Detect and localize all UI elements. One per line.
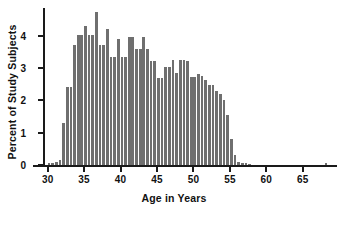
x-tick-mark: [120, 167, 122, 172]
histogram-bar: [91, 35, 94, 165]
histogram-bar: [197, 74, 200, 165]
x-tick-mark: [265, 167, 267, 172]
y-tick-label: 3: [20, 62, 26, 73]
histogram-bar: [183, 60, 186, 165]
histogram-bar: [204, 80, 207, 165]
histogram-bar: [215, 91, 218, 165]
y-tick-label: 0: [20, 160, 26, 171]
y-tick-mark: [38, 35, 43, 37]
histogram-bar: [157, 78, 160, 165]
x-tick-mark: [83, 167, 85, 172]
x-tick-label: 50: [188, 174, 200, 185]
histogram-bar: [164, 67, 167, 165]
y-axis-title: Percent of Study Subjects: [6, 12, 18, 172]
histogram-bar: [168, 67, 171, 165]
x-tick-mark: [156, 167, 158, 172]
x-tick-label: 30: [42, 174, 54, 185]
histogram-bar: [201, 76, 204, 165]
x-tick-label: 65: [297, 174, 309, 185]
histogram-bar: [212, 85, 215, 165]
histogram-bar: [172, 60, 175, 165]
histogram-bar: [193, 77, 196, 165]
histogram-bar: [139, 49, 142, 165]
x-axis-line: [33, 165, 337, 167]
x-tick-mark: [192, 167, 194, 172]
histogram-bar: [110, 57, 113, 165]
histogram-bar: [135, 49, 138, 165]
x-tick-mark: [47, 167, 49, 172]
plot-area: [44, 8, 332, 165]
histogram-bar: [102, 45, 105, 165]
y-tick-mark: [38, 99, 43, 101]
x-tick-label: 55: [224, 174, 236, 185]
histogram-bar: [128, 37, 131, 166]
y-tick-label: 4: [20, 30, 26, 41]
histogram-bar: [62, 123, 65, 165]
x-tick-label: 40: [115, 174, 127, 185]
histogram-bar: [186, 61, 189, 165]
x-tick-label: 35: [78, 174, 90, 185]
histogram-bar: [88, 35, 91, 165]
histogram-bar: [161, 78, 164, 165]
y-tick-mark: [38, 67, 43, 69]
histogram-bar: [223, 100, 226, 165]
y-tick-label: 1: [20, 127, 26, 138]
histogram-bar: [106, 29, 109, 165]
histogram-bar: [70, 87, 73, 165]
histogram-bar: [153, 61, 156, 165]
x-axis-title: Age in Years: [0, 192, 348, 204]
y-tick-label: 2: [20, 95, 26, 106]
histogram-bar: [146, 49, 149, 165]
histogram-bar: [226, 115, 229, 165]
histogram-bar: [80, 35, 83, 165]
histogram-bar: [150, 61, 153, 165]
histogram-chart: 3035404550556065 01234 Age in Years Perc…: [0, 0, 348, 228]
histogram-bar: [99, 45, 102, 165]
histogram-bar: [73, 45, 76, 165]
y-axis-line: [43, 8, 45, 166]
histogram-bar: [95, 12, 98, 165]
x-tick-mark: [302, 167, 304, 172]
histogram-bar: [66, 87, 69, 165]
histogram-bar: [124, 57, 127, 165]
histogram-bar: [230, 139, 233, 165]
histogram-bar: [219, 94, 222, 165]
histogram-bar: [113, 57, 116, 165]
histogram-bar: [77, 35, 80, 165]
histogram-bar: [175, 73, 178, 165]
histogram-bar: [84, 26, 87, 165]
y-tick-mark: [38, 132, 43, 134]
histogram-bar: [234, 155, 237, 165]
histogram-bar: [121, 57, 124, 165]
histogram-bar: [190, 77, 193, 165]
x-tick-label: 60: [261, 174, 273, 185]
x-tick-label: 45: [151, 174, 163, 185]
histogram-bar: [131, 37, 134, 166]
x-tick-mark: [229, 167, 231, 172]
y-tick-mark: [38, 164, 43, 166]
histogram-bar: [208, 85, 211, 165]
histogram-bar: [117, 39, 120, 165]
histogram-bar: [142, 37, 145, 165]
histogram-bar: [179, 60, 182, 165]
